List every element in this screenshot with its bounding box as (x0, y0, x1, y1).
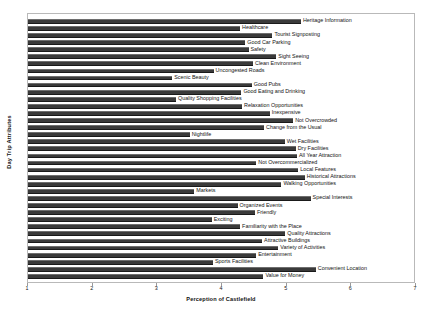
bar-label: Sports Facilities (213, 258, 253, 265)
bar (28, 246, 278, 251)
bar-label: Attractive Buildings (262, 237, 310, 244)
x-axis-title: Perception of Castlefield (27, 296, 415, 302)
bar (28, 33, 272, 38)
bar-row: Organized Events (28, 202, 414, 209)
bar (28, 69, 214, 74)
bar (28, 168, 298, 173)
bar-label: Clean Environment (253, 60, 301, 67)
bar-row: Wet Facilities (28, 138, 414, 145)
bar-row: Value for Money (28, 273, 414, 280)
bar-label: Familiarity with the Place (240, 223, 302, 230)
bar-row: Not Overcrowded (28, 117, 414, 124)
x-axis-tick-label: 5 (284, 285, 287, 291)
bar-row: Not Overcommercialized (28, 160, 414, 167)
bar-label: Variety of Activities (278, 244, 325, 251)
bar-label: Scenic Beauty (172, 74, 208, 81)
bar (28, 217, 212, 222)
y-axis-title-text: Day Trip Attributes (6, 115, 12, 169)
bar-label: Friendly (255, 209, 276, 216)
bar-label: Quality Attractions (285, 230, 330, 237)
bar-row: Special Interests (28, 195, 414, 202)
bar-row: Healthcare (28, 25, 414, 32)
bar-label: Good Car Parking (245, 39, 290, 46)
bar-label: Not Overcrowded (293, 117, 337, 124)
bar (28, 253, 256, 258)
bar-row: Heritage Information (28, 18, 414, 25)
bar-label: Entertainment (256, 251, 292, 258)
bar-label: All Year Attraction (297, 152, 341, 159)
bar-label: Change from the Usual (264, 124, 321, 131)
bars-container: Heritage InformationHealthcareTourist Si… (28, 14, 414, 282)
bar-label: Good Pubs (252, 81, 281, 88)
bar-row: Inexpensive (28, 110, 414, 117)
bar (28, 196, 311, 201)
bar-label: Inexpensive (270, 109, 301, 116)
bar (28, 224, 240, 229)
chart-figure: Day Trip Attributes Heritage Information… (0, 0, 433, 326)
bar-row: Familiarity with the Place (28, 223, 414, 230)
bar (28, 47, 249, 52)
bar-label: Uncongested Roads (214, 67, 265, 74)
bar (28, 239, 262, 244)
bar-row: Tourist Signposting (28, 32, 414, 39)
bar-row: Sight Seeing (28, 53, 414, 60)
x-axis-tick-label: 1 (26, 285, 29, 291)
bar-row: All Year Attraction (28, 153, 414, 160)
bar (28, 139, 285, 144)
bar-label: Sight Seeing (276, 53, 309, 60)
bar-label: Safety (249, 46, 266, 53)
bar-label: Healthcare (240, 24, 268, 31)
bar (28, 175, 305, 180)
bar-label: Wet Facilities (285, 138, 319, 145)
bar-row: Variety of Activities (28, 245, 414, 252)
bar (28, 111, 270, 116)
bar-row: Convenient Location (28, 266, 414, 273)
bar (28, 26, 240, 31)
bar (28, 274, 263, 279)
x-axis-tick-label: 3 (155, 285, 158, 291)
y-axis-title: Day Trip Attributes (2, 0, 16, 283)
bar-label: Good Eating and Drinking (241, 88, 305, 95)
bar-row: Dry Facilities (28, 145, 414, 152)
bar (28, 40, 245, 45)
x-axis-tick-label: 2 (90, 285, 93, 291)
bar-row: Change from the Usual (28, 124, 414, 131)
x-axis-tick-label: 7 (414, 285, 417, 291)
bar-row: Safety (28, 46, 414, 53)
bar (28, 90, 241, 95)
bar-row: Quality Attractions (28, 230, 414, 237)
bar-label: Nightlife (190, 131, 211, 138)
plot-area: Heritage InformationHealthcareTourist Si… (27, 13, 415, 283)
bar (28, 182, 281, 187)
bar-row: Uncongested Roads (28, 68, 414, 75)
x-axis-tick-label: 4 (220, 285, 223, 291)
bar-label: Tourist Signposting (272, 31, 320, 38)
bar (28, 61, 253, 66)
bar-label: Quality Shopping Facilities (176, 95, 242, 102)
bar (28, 267, 316, 272)
bar-label: Historical Attractions (305, 173, 356, 180)
bar-row: Good Pubs (28, 82, 414, 89)
bar-row: Markets (28, 188, 414, 195)
bar (28, 260, 213, 265)
bar-label: Convenient Location (316, 265, 367, 272)
bar (28, 203, 238, 208)
bar (28, 104, 242, 109)
bar-row: Local Features (28, 167, 414, 174)
bar (28, 132, 190, 137)
bar-label: Walking Opportunities (281, 180, 336, 187)
bar (28, 97, 176, 102)
bar (28, 146, 296, 151)
bar (28, 118, 293, 123)
bar (28, 161, 256, 166)
bar-row: Attractive Buildings (28, 238, 414, 245)
bar (28, 189, 194, 194)
bar-label: Not Overcommercialized (256, 159, 317, 166)
bar-label: Dry Facilities (296, 145, 329, 152)
bar (28, 210, 255, 215)
bar-row: Historical Attractions (28, 174, 414, 181)
bar-label: Markets (194, 187, 215, 194)
bar (28, 54, 276, 59)
bar-label: Special Interests (311, 194, 353, 201)
bar-label: Local Features (298, 166, 336, 173)
